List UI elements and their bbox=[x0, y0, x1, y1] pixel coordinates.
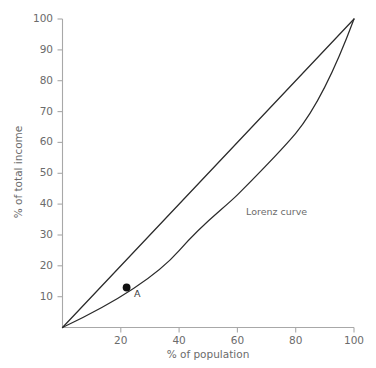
point-a-marker bbox=[123, 284, 131, 292]
y-tick-label-40: 40 bbox=[40, 197, 53, 209]
y-tick-label-60: 60 bbox=[40, 135, 53, 147]
lorenz-curve-chart: 10 20 30 40 50 60 70 80 90 100 20 40 60 … bbox=[0, 0, 376, 368]
x-tick-label-40: 40 bbox=[172, 334, 185, 346]
y-tick-label-90: 90 bbox=[40, 43, 53, 55]
x-tick-label-80: 80 bbox=[289, 334, 302, 346]
y-tick-label-70: 70 bbox=[40, 105, 53, 117]
x-tick-label-60: 60 bbox=[231, 334, 244, 346]
y-tick-label-100: 100 bbox=[33, 12, 53, 24]
y-tick-label-10: 10 bbox=[40, 290, 53, 302]
y-tick-label-50: 50 bbox=[40, 166, 53, 178]
point-a-label: A bbox=[134, 288, 141, 299]
y-axis-title: % of total income bbox=[12, 126, 24, 219]
y-tick-label-80: 80 bbox=[40, 74, 53, 86]
y-tick-label-30: 30 bbox=[40, 228, 53, 240]
lorenz-curve-annotation: Lorenz curve bbox=[246, 206, 307, 217]
chart-canvas: 10 20 30 40 50 60 70 80 90 100 20 40 60 … bbox=[0, 0, 376, 368]
x-tick-label-20: 20 bbox=[114, 334, 127, 346]
y-tick-label-20: 20 bbox=[40, 259, 53, 271]
x-axis-ticks bbox=[121, 328, 354, 333]
y-axis-tick-labels: 10 20 30 40 50 60 70 80 90 100 bbox=[33, 12, 53, 302]
y-axis-ticks bbox=[58, 19, 63, 297]
x-axis-title: % of population bbox=[167, 348, 250, 360]
x-tick-label-100: 100 bbox=[344, 334, 364, 346]
line-of-equality bbox=[63, 19, 355, 328]
x-axis-tick-labels: 20 40 60 80 100 bbox=[114, 334, 364, 346]
